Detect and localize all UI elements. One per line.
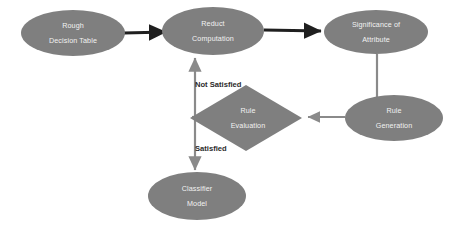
node-rule-generation-line2: Generation [376,121,413,130]
node-rough-decision-table-line1: Rough [62,21,84,30]
edge-label-not-satisfied: Not Satisfied [195,80,242,89]
node-rule-evaluation-line1: Rule [240,106,255,115]
node-significance-of-attribute[interactable]: Significance of Attribute [324,10,428,54]
edge-table-to-reduct [124,32,166,33]
node-rule-generation[interactable]: Rule Generation [345,95,443,141]
node-reduct-computation-line2: Computation [192,34,234,43]
node-rule-evaluation-line2: Evaluation [231,121,266,130]
edge-label-satisfied: Satisfied [195,144,227,153]
node-reduct-computation-line1: Reduct [201,19,224,28]
node-rule-evaluation[interactable]: Rule Evaluation [190,85,302,151]
node-significance-of-attribute-line1: Significance of [352,20,400,29]
node-classifier-model-line1: Classifier [182,184,213,193]
node-rough-decision-table-line2: Decision Table [49,36,97,45]
node-rule-generation-line1: Rule [386,106,401,115]
node-classifier-model-line2: Model [187,199,207,208]
node-rough-decision-table[interactable]: Rough Decision Table [21,10,125,56]
node-reduct-computation[interactable]: Reduct Computation [162,7,264,55]
flowchart-canvas: Rough Decision Table Reduct Computation … [0,0,460,228]
flowchart-diagram: Rough Decision Table Reduct Computation … [0,0,460,228]
node-classifier-model[interactable]: Classifier Model [148,172,246,220]
edge-reduct-to-significance [264,30,321,31]
node-significance-of-attribute-line2: Attribute [362,35,390,44]
